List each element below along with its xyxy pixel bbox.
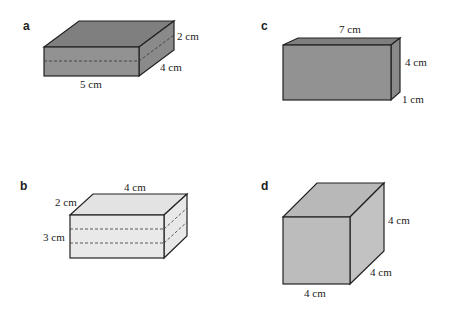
label-height: 4 cm <box>388 214 410 226</box>
label-height: 3 cm <box>43 231 65 243</box>
front-face <box>70 215 164 258</box>
label-height: 2 cm <box>177 30 199 42</box>
front-face <box>44 47 139 76</box>
label-length: 4 cm <box>124 181 146 193</box>
label-depth: 2 cm <box>55 196 77 208</box>
cuboids-diagram: a 2 cm 4 cm 5 cm c 7 cm 4 cm 1 cm b 4 cm… <box>0 0 449 310</box>
label-depth: 4 cm <box>370 266 392 278</box>
front-face <box>283 217 350 284</box>
side-face <box>391 38 400 100</box>
figure-letter-d: d <box>261 179 268 193</box>
front-face <box>283 45 391 100</box>
figure-letter-c: c <box>261 19 268 33</box>
cuboid-d: d 4 cm 4 cm 4 cm <box>261 179 410 299</box>
label-length: 5 cm <box>80 78 102 90</box>
figure-letter-a: a <box>23 19 30 33</box>
cuboid-a: a 2 cm 4 cm 5 cm <box>23 19 199 90</box>
label-depth: 4 cm <box>160 61 182 73</box>
figure-letter-b: b <box>20 179 27 193</box>
label-height: 4 cm <box>405 56 427 68</box>
label-length: 4 cm <box>304 287 326 299</box>
label-depth: 1 cm <box>402 93 424 105</box>
label-length: 7 cm <box>339 23 361 35</box>
cuboid-b: b 4 cm 2 cm 3 cm <box>20 179 187 258</box>
cuboid-c: c 7 cm 4 cm 1 cm <box>261 19 427 105</box>
top-face <box>283 38 400 45</box>
